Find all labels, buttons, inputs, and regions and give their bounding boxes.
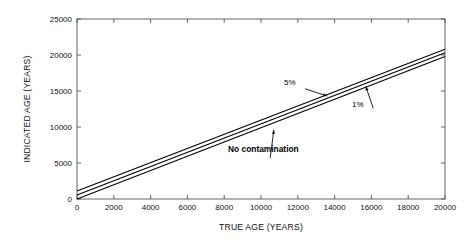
series-line-1% (77, 53, 445, 195)
annotation-no-contamination: No contamination (228, 144, 299, 154)
plot-area (0, 0, 476, 243)
axis-frame (77, 19, 445, 199)
tick-marks (77, 19, 445, 199)
series-line-No contamination (77, 56, 445, 199)
series-line-5% (77, 49, 445, 191)
data-series-lines (77, 49, 445, 199)
chart-figure: INDICATED AGE (YEARS) 0 5000 10000 15000… (0, 0, 476, 243)
annotation-5-percent: 5% (284, 78, 296, 87)
annotation-1-percent: 1% (352, 100, 364, 109)
